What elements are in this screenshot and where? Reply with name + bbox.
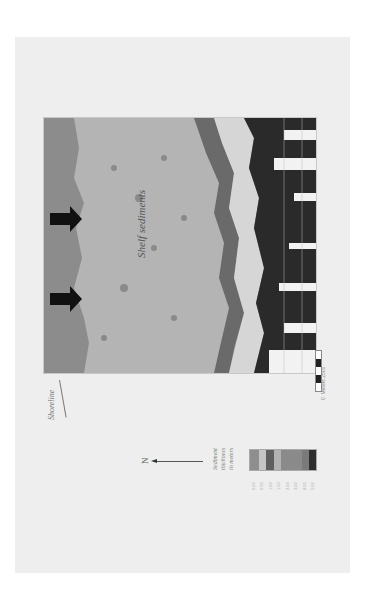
legend-title: Sediment thickness in meters (211, 448, 235, 470)
legend-value: 0.00 (251, 472, 256, 490)
scale-bar-label: 0 Meters 2500 (320, 367, 326, 400)
scale-start: 0 (320, 397, 326, 400)
shelf-sediments-label: Shelf sediments (135, 190, 147, 258)
north-label: N (140, 458, 150, 465)
scale-unit: Meters (320, 379, 326, 394)
legend-swatch (259, 450, 266, 470)
legend-title-line: thickness (219, 448, 227, 470)
legend-value: 1.00 (268, 472, 273, 490)
legend-swatch (274, 450, 281, 470)
legend-swatch (309, 450, 316, 470)
legend-value: 2.00 (285, 472, 290, 490)
legend-color-bar (249, 449, 317, 471)
north-arrow-icon (155, 461, 203, 462)
legend-title-line: in meters (227, 448, 235, 470)
legend-value: 5.00 (310, 472, 315, 490)
shoreline-label: Shoreline (47, 390, 56, 420)
legend-swatch (250, 450, 259, 470)
legend-swatch (302, 450, 309, 470)
legend-swatch (281, 450, 302, 470)
scale-end: 2500 (320, 367, 326, 378)
legend-value: 0.50 (259, 472, 264, 490)
legend-title-line: Sediment (211, 448, 219, 470)
sediment-thickness-map (43, 117, 317, 374)
legend-values: 0.00 0.50 1.00 1.50 2.00 3.00 4.00 5.00 (251, 472, 315, 490)
legend-value: 3.00 (293, 472, 298, 490)
legend-swatch (266, 450, 275, 470)
legend-value: 4.00 (302, 472, 307, 490)
legend-value: 1.50 (276, 472, 281, 490)
